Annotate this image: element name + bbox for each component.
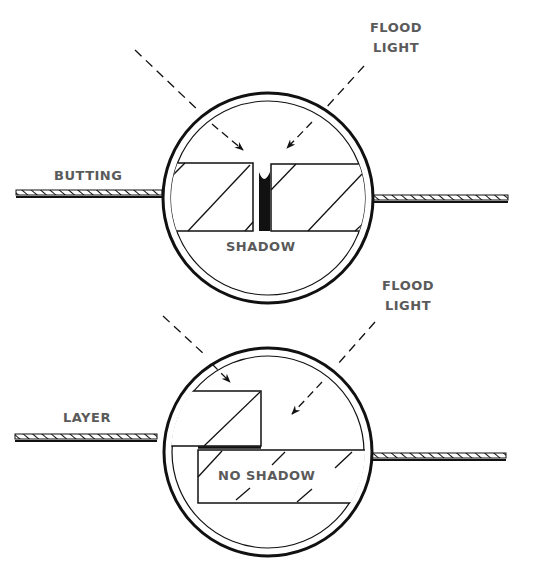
- gap-shadow: [259, 172, 270, 231]
- top-flood-label-line1: FLOOD: [366, 18, 426, 38]
- right-strip: [372, 195, 508, 202]
- bottom-flood-light-label: FLOOD LIGHT: [378, 276, 438, 316]
- top-flood-label-line2: LIGHT: [366, 38, 426, 58]
- no-shadow-label: NO SHADOW: [218, 466, 315, 486]
- shadow-label: SHADOW: [226, 237, 296, 257]
- right-strip: [368, 453, 506, 460]
- bottom-panel-layer: [15, 316, 506, 556]
- top-flood-light-label: FLOOD LIGHT: [366, 18, 426, 58]
- layer-label: LAYER: [63, 408, 111, 428]
- bottom-flood-label-line2: LIGHT: [378, 296, 438, 316]
- butting-label: BUTTING: [54, 166, 122, 186]
- left-strip: [16, 190, 162, 197]
- bottom-flood-label-line1: FLOOD: [378, 276, 438, 296]
- left-strip: [15, 434, 157, 441]
